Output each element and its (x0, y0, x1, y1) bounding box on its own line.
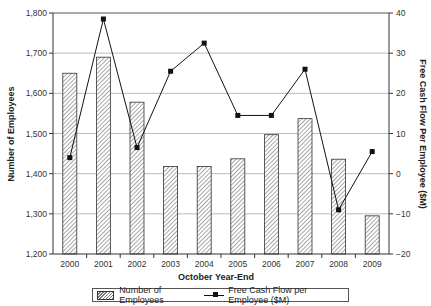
y-tick-label: 1,500 (26, 129, 48, 139)
y2-axis-title: Free Cash Flow Per Employee ($M) (418, 59, 428, 209)
employee-bar (197, 166, 211, 254)
fcf-marker (269, 113, 274, 118)
x-tick-label: 2003 (161, 259, 180, 269)
x-tick-label: 2007 (296, 259, 315, 269)
x-tick-label: 2002 (128, 259, 147, 269)
x-tick-label: 2005 (228, 259, 247, 269)
x-tick-label: 2006 (262, 259, 281, 269)
y-tick-label: 1,200 (26, 249, 48, 259)
legend-bar-label: Number of Employees (119, 285, 194, 305)
fcf-line (67, 17, 374, 213)
x-tick-label: 2000 (60, 259, 79, 269)
y-tick-label: 1,600 (26, 88, 48, 98)
fcf-marker (370, 149, 375, 154)
legend: Number of Employees Free Cash Flow per E… (92, 288, 349, 302)
fcf-marker (202, 41, 207, 46)
legend-line-label: Free Cash Flow per Employee ($M) (228, 285, 348, 305)
y2-tick-label: 0 (396, 169, 401, 179)
fcf-marker (303, 67, 308, 72)
fcf-marker (101, 17, 106, 22)
employee-bar (96, 57, 110, 254)
employee-bar (164, 166, 178, 254)
combo-chart: 1,2001,3001,4001,5001,6001,7001,800−20−1… (0, 0, 431, 290)
employee-bar (264, 135, 278, 254)
fcf-marker (235, 113, 240, 118)
employee-bar (365, 216, 379, 254)
y-tick-label: 1,300 (26, 209, 48, 219)
y2-tick-label: 20 (396, 88, 406, 98)
y-tick-label: 1,400 (26, 169, 48, 179)
x-tick-label: 2004 (195, 259, 214, 269)
line-marker-icon (204, 291, 224, 299)
x-tick-label: 2001 (94, 259, 113, 269)
fcf-marker (336, 207, 341, 212)
x-tick-label: 2008 (329, 259, 348, 269)
fcf-marker (168, 69, 173, 74)
y2-tick-label: 10 (396, 129, 406, 139)
bar-swatch-icon (97, 291, 114, 300)
employee-bar (332, 159, 346, 254)
employee-bar (231, 159, 245, 254)
fcf-marker (135, 145, 140, 150)
y-tick-label: 1,800 (26, 8, 48, 18)
y-tick-label: 1,700 (26, 48, 48, 58)
tick-labels: 1,2001,3001,4001,5001,6001,7001,800−20−1… (26, 8, 411, 269)
x-axis-title: October Year-End (178, 272, 254, 282)
y2-tick-label: 30 (396, 48, 406, 58)
fcf-marker (67, 155, 72, 160)
employee-bar (298, 119, 312, 254)
y2-tick-label: −10 (396, 209, 411, 219)
y2-tick-label: −20 (396, 249, 411, 259)
y-axis-title: Number of Employees (6, 86, 16, 181)
x-tick-label: 2009 (363, 259, 382, 269)
employee-bar (130, 102, 144, 254)
y2-tick-label: 40 (396, 8, 406, 18)
employee-bar (63, 73, 77, 254)
employee-bars (63, 57, 379, 254)
